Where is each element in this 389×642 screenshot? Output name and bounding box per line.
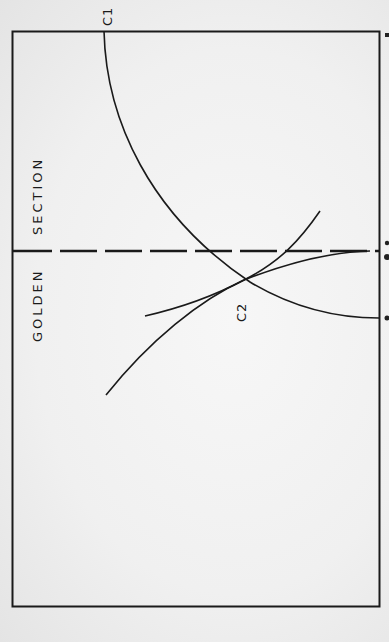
label-c1: C1 xyxy=(100,7,115,26)
edge-mark-dot xyxy=(385,316,389,321)
frame-rectangle xyxy=(13,32,383,207)
frame-rectangle xyxy=(13,32,380,607)
edge-mark-dot xyxy=(384,254,389,260)
label-c2: C2 xyxy=(234,303,249,322)
label-golden: GOLDEN xyxy=(30,269,45,343)
diagram-page: GOLDEN SECTION C1 C2 xyxy=(0,0,389,642)
curve-c2-line xyxy=(106,211,320,395)
curve-c1 xyxy=(104,31,379,318)
tangent-curve xyxy=(145,251,370,316)
golden-section-diagram xyxy=(0,0,389,642)
edge-mark-top xyxy=(385,33,389,37)
label-section: SECTION xyxy=(30,157,45,235)
edge-mark-dot xyxy=(385,241,389,245)
